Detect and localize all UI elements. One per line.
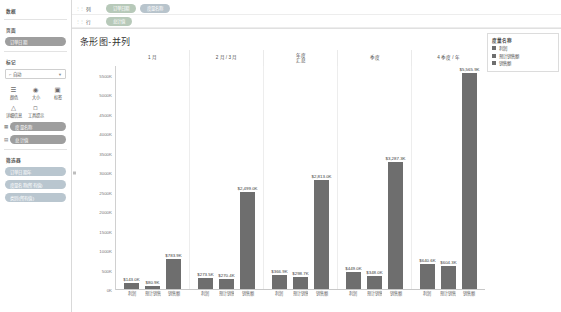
- x-tick-label-0-2[interactable]: 销售额: [167, 290, 182, 300]
- x-tick-label-2-0[interactable]: 利润: [272, 290, 287, 300]
- mark-button-label[interactable]: ▣ 标签: [47, 84, 68, 102]
- column-header-2[interactable]: 年度 汇总: [264, 50, 338, 66]
- column-header-0[interactable]: 1 月: [116, 50, 190, 66]
- rows-shelf-label: ⋮⋮ 行: [76, 18, 102, 25]
- bar-0-0[interactable]: [124, 283, 139, 289]
- bar-3-0[interactable]: [346, 272, 361, 289]
- bar-2-2[interactable]: [314, 180, 329, 289]
- marks-card-row-2: △ 详细信息 ◽ 工具提示: [0, 102, 71, 120]
- marks-pill-measure-names[interactable]: 度量名称: [10, 122, 66, 131]
- x-tick-label-4-1[interactable]: 预计销售额: [440, 290, 455, 300]
- measure-names-icon: ▦: [4, 124, 8, 129]
- x-tick-label-4-2[interactable]: 销售额: [462, 290, 477, 300]
- pages-pill[interactable]: 订单日期: [5, 37, 66, 46]
- column-header-1[interactable]: 2 月 / 3 月: [190, 50, 264, 66]
- bar-slot-4-1[interactable]: $604.3K: [441, 66, 456, 289]
- bar-slot-0-2[interactable]: $783.9K: [166, 66, 181, 289]
- bar-slot-4-0[interactable]: $640.6K: [420, 66, 435, 289]
- bar-slot-2-1[interactable]: $298.7K: [293, 66, 308, 289]
- x-tick-label-1-0[interactable]: 利润: [198, 290, 213, 300]
- mark-label-color: 颜色: [10, 94, 18, 100]
- bar-2-0[interactable]: [272, 275, 287, 289]
- x-tick-label-4-0[interactable]: 利润: [419, 290, 434, 300]
- x-tick-label-2-2[interactable]: 销售额: [314, 290, 329, 300]
- mark-button-detail[interactable]: △ 详细信息: [3, 102, 24, 120]
- rows-pill-0[interactable]: 总计值: [106, 17, 132, 26]
- bar-groups: $143.0K$80.9K$783.9K$273.5K$270.4K$2,499…: [116, 66, 485, 290]
- x-tick-label-2-1[interactable]: 预计销售额: [293, 290, 308, 300]
- bar-2-1[interactable]: [293, 277, 308, 289]
- bar-slot-3-2[interactable]: $3,287.3K: [388, 66, 403, 289]
- legend-swatch-icon-1: [492, 54, 496, 58]
- data-section-title: 数据: [0, 4, 71, 16]
- bar-1-2[interactable]: [240, 192, 255, 289]
- marks-pill-measure-values[interactable]: 总计值: [10, 135, 66, 144]
- columns-pill-1[interactable]: 度量名称: [140, 4, 170, 13]
- bar-3-1[interactable]: [367, 276, 382, 289]
- filter-pill-1[interactable]: 度量名称(所有值): [5, 180, 66, 189]
- measure-values-icon: ▤: [4, 137, 8, 142]
- x-tick-label-3-2[interactable]: 销售额: [388, 290, 403, 300]
- bar-slot-1-1[interactable]: $270.4K: [219, 66, 234, 289]
- y-axis-handle[interactable]: [73, 172, 76, 175]
- bar-slot-4-2[interactable]: $5,565.9K: [462, 66, 477, 289]
- bar-1-0[interactable]: [198, 278, 213, 289]
- bar-slot-2-0[interactable]: $366.9K: [272, 66, 287, 289]
- mark-label-size: 大小: [32, 94, 40, 100]
- bar-slot-2-2[interactable]: $2,813.0K: [314, 66, 329, 289]
- filter-pill-0[interactable]: 订单日期年: [5, 167, 66, 176]
- bar-slot-3-0[interactable]: $449.0K: [346, 66, 361, 289]
- main-panel: ⋮⋮ 列 订单日期 度量名称 ⋮⋮ 行 总计值 条形图-并列 1 月2 月 / …: [72, 0, 561, 312]
- sidebar-divider-1: [4, 19, 67, 20]
- marks-type-dropdown[interactable]: ⌐ 自动 ▼: [5, 69, 66, 79]
- sidebar-divider-2: [4, 51, 67, 52]
- x-tick-label-3-1[interactable]: 预计销售额: [367, 290, 382, 300]
- bar-3-2[interactable]: [388, 162, 403, 289]
- marks-pill-row-0[interactable]: ▦ 度量名称: [0, 120, 71, 133]
- chevron-down-icon: ▼: [58, 72, 62, 77]
- marks-section-title: 标记: [0, 55, 71, 67]
- y-tick-11: 0K: [107, 288, 112, 293]
- columns-pill-0[interactable]: 订单日期: [106, 4, 136, 13]
- legend[interactable]: 度量名称 利润 预计销售额 销售额: [487, 33, 559, 72]
- bar-value-label-0-1: $80.9K: [146, 280, 160, 285]
- bar-4-0[interactable]: [420, 264, 435, 289]
- bar-slot-1-0[interactable]: $273.5K: [198, 66, 213, 289]
- bar-group-2: $366.9K$298.7K$2,813.0K: [264, 66, 338, 289]
- y-tick-1: 5000K: [99, 93, 112, 98]
- y-tick-8: 1500K: [99, 229, 112, 234]
- legend-swatch-icon-0: [492, 46, 496, 50]
- bar-group-0: $143.0K$80.9K$783.9K: [116, 66, 190, 289]
- bar-slot-1-2[interactable]: $2,499.0K: [240, 66, 255, 289]
- legend-item-0[interactable]: 利润: [492, 45, 554, 51]
- x-tick-label-0-0[interactable]: 利润: [124, 290, 139, 300]
- mark-button-tooltip[interactable]: ◽ 工具提示: [25, 102, 46, 120]
- x-tick-label-0-1[interactable]: 预计销售额: [145, 290, 160, 300]
- y-tick-10: 500K: [102, 268, 112, 273]
- y-tick-3: 4000K: [99, 132, 112, 137]
- legend-item-1[interactable]: 预计销售额: [492, 53, 554, 59]
- bar-group-1: $273.5K$270.4K$2,499.0K: [190, 66, 264, 289]
- marks-pill-row-1[interactable]: ▤ 总计值: [0, 133, 71, 146]
- bar-0-2[interactable]: [166, 259, 181, 289]
- column-header-3[interactable]: 季度: [338, 50, 412, 66]
- columns-shelf[interactable]: ⋮⋮ 列 订单日期 度量名称: [72, 2, 561, 15]
- bar-slot-0-0[interactable]: $143.0K: [124, 66, 139, 289]
- bar-4-1[interactable]: [441, 266, 456, 289]
- filter-pill-2[interactable]: 类别(所有值): [5, 193, 66, 202]
- x-tick-label-1-2[interactable]: 销售额: [240, 290, 255, 300]
- bar-1-1[interactable]: [219, 279, 234, 289]
- bar-slot-0-1[interactable]: $80.9K: [145, 66, 160, 289]
- mark-button-color[interactable]: ☰ 颜色: [3, 84, 24, 102]
- bar-4-2[interactable]: [462, 73, 477, 289]
- bar-0-1[interactable]: [145, 286, 160, 289]
- rows-shelf[interactable]: ⋮⋮ 行 总计值: [72, 15, 561, 28]
- x-tick-label-1-1[interactable]: 预计销售额: [219, 290, 234, 300]
- column-headers: 1 月2 月 / 3 月年度 汇总季度4 季度 / 年: [116, 50, 485, 66]
- column-header-4[interactable]: 4 季度 / 年: [412, 50, 485, 66]
- bar-slot-3-1[interactable]: $348.0K: [367, 66, 382, 289]
- legend-item-2[interactable]: 销售额: [492, 60, 554, 66]
- x-tick-label-3-0[interactable]: 利润: [345, 290, 360, 300]
- y-tick-6: 2500K: [99, 190, 112, 195]
- mark-button-size[interactable]: ◉ 大小: [25, 84, 46, 102]
